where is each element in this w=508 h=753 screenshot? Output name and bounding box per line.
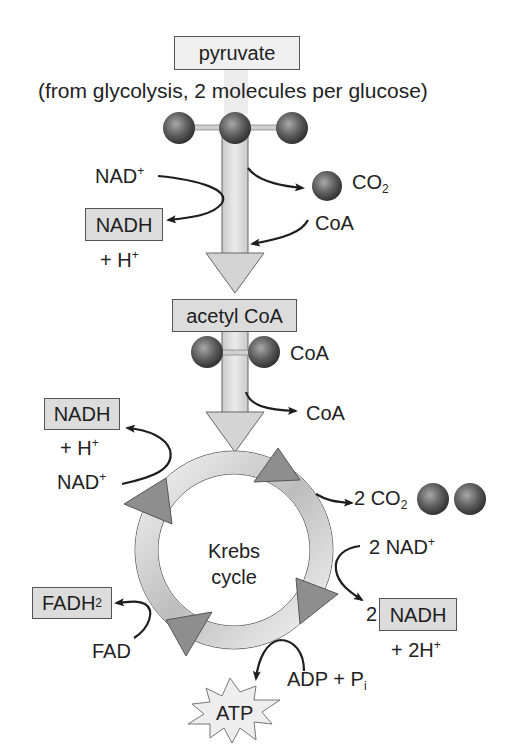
fadh2-box: FADH2 xyxy=(32,587,112,619)
co2-label-cycle: 2 CO2 xyxy=(354,488,407,508)
pyruvate-label: pyruvate xyxy=(199,43,276,63)
co2-label-link: CO2 xyxy=(352,172,389,192)
nad-label-link: NAD+ xyxy=(95,166,144,186)
right-nad-curve xyxy=(336,546,362,600)
nadh-box-right: NADH xyxy=(379,598,457,631)
h-plus-left: + H+ xyxy=(60,438,99,458)
krebs-diagram: pyruvate (from glycolysis, 2 molecules p… xyxy=(0,0,508,753)
nad-to-nadh-curve xyxy=(158,176,223,220)
down-arrow-link xyxy=(206,135,264,293)
carbon-sphere xyxy=(191,336,223,368)
nadh-coef-right: 2 xyxy=(366,604,377,624)
pyruvate-note: (from glycolysis, 2 molecules per glucos… xyxy=(38,80,428,101)
two-h-plus-right: + 2H+ xyxy=(391,640,441,660)
pyruvate-box: pyruvate xyxy=(174,36,300,70)
coa-in-label: CoA xyxy=(315,213,354,233)
fad-label: FAD xyxy=(92,641,131,661)
nadh-box-left: NADH xyxy=(44,398,120,430)
nadh-box-link: NADH xyxy=(85,208,163,241)
carbon-sphere xyxy=(219,112,251,144)
nad-label-left: NAD+ xyxy=(57,472,106,492)
pyruvate-molecule xyxy=(163,112,308,144)
atp-label: ATP xyxy=(216,703,253,723)
coa-attached-label: CoA xyxy=(290,343,329,363)
co2-sphere xyxy=(454,483,486,515)
acetyl-coa-box: acetyl CoA xyxy=(172,299,297,332)
coa-in-curve xyxy=(252,220,308,244)
left-nad-curve xyxy=(122,428,171,484)
nad-label-right: 2 NAD+ xyxy=(369,537,435,557)
fad-curve xyxy=(116,602,150,638)
carbon-sphere xyxy=(248,336,280,368)
co2-sphere xyxy=(312,171,342,201)
coa-released-label: CoA xyxy=(306,403,345,423)
carbon-sphere xyxy=(276,112,308,144)
co2-cycle-curve xyxy=(316,494,352,503)
coa-release-curve xyxy=(246,392,296,411)
h-plus-link: + H+ xyxy=(100,250,139,270)
co2-release-curve xyxy=(248,168,303,188)
co2-sphere xyxy=(417,483,449,515)
carbon-sphere xyxy=(163,112,195,144)
krebs-label: Krebs cycle xyxy=(194,538,274,590)
adp-pi-label: ADP + Pi xyxy=(287,669,367,689)
